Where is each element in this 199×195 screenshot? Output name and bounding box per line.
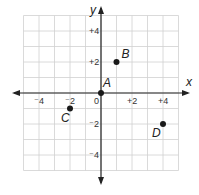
point-label-a: A <box>102 76 111 90</box>
y-tick-label: ⁻4 <box>89 150 99 160</box>
x-tick-label: 0 <box>94 96 99 106</box>
coordinate-plane: xy ⁻4⁻20+2+4+4+2⁻2⁻4 ABCD <box>0 0 199 195</box>
x-axis-right-arrow-icon <box>182 90 190 96</box>
point-label-d: D <box>152 126 161 140</box>
x-axis-left-arrow-icon <box>12 90 20 96</box>
y-tick-label: +2 <box>89 57 99 67</box>
point-label-c: C <box>61 111 70 125</box>
y-tick-label: ⁻2 <box>89 119 99 129</box>
y-axis-down-arrow-icon <box>98 177 104 185</box>
point-a <box>98 90 104 96</box>
x-tick-label: +2 <box>127 96 137 106</box>
x-tick-label: ⁻4 <box>34 96 44 106</box>
x-tick-label: ⁻2 <box>65 96 75 106</box>
point-label-b: B <box>122 47 130 61</box>
point-b <box>114 59 120 65</box>
x-tick-label: +4 <box>158 96 168 106</box>
point-d <box>160 121 166 127</box>
y-axis-label: y <box>89 3 97 17</box>
y-axis-up-arrow-icon <box>98 6 104 14</box>
y-tick-label: +4 <box>89 26 99 36</box>
x-axis-label: x <box>185 75 193 89</box>
